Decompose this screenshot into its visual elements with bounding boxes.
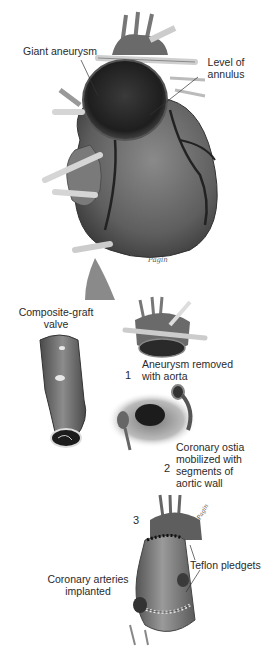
- artist-signature: Pagin: [147, 256, 168, 264]
- label-composite-graft-line2: valve: [10, 318, 102, 330]
- label-coronary-arteries-line1: Coronary arteries: [40, 573, 136, 585]
- label-level-of-annulus-line2: annulus: [196, 68, 256, 80]
- label-level-of-annulus-line1: Level of: [196, 56, 256, 68]
- label-step1-line1: Aneurysm removed: [142, 358, 233, 370]
- label-level-of-annulus: Level of annulus: [196, 56, 256, 80]
- step-number-1: 1: [125, 369, 131, 381]
- label-step2-line4: aortic wall: [176, 477, 244, 489]
- label-step2-line2: mobilized with: [176, 453, 244, 465]
- label-coronary-arteries: Coronary arteries implanted: [40, 573, 136, 597]
- label-teflon-pledgets: Teflon pledgets: [190, 559, 261, 571]
- label-step2-line1: Coronary ostia: [176, 441, 244, 453]
- step-number-3: 3: [133, 514, 139, 526]
- label-step2-line3: segments of: [176, 465, 244, 477]
- label-composite-graft-line1: Composite-graft: [10, 306, 102, 318]
- label-giant-aneurysm: Giant aneurysm: [23, 45, 97, 57]
- artist-signature-small: Pagin: [194, 502, 210, 522]
- label-composite-graft: Composite-graft valve: [10, 306, 102, 330]
- label-step1-line2: with aorta: [142, 370, 233, 382]
- label-step1: Aneurysm removed with aorta: [142, 358, 233, 382]
- label-step2: Coronary ostia mobilized with segments o…: [176, 441, 244, 489]
- step1-illustration: [125, 297, 205, 357]
- composite-graft-illustration: [40, 335, 86, 447]
- step-number-2: 2: [164, 462, 170, 474]
- label-coronary-arteries-line2: implanted: [40, 585, 136, 597]
